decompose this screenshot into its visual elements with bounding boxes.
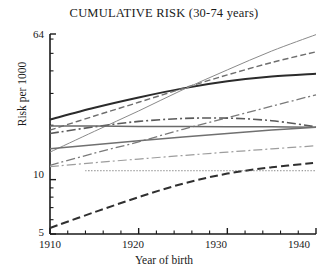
series-line-7 — [50, 127, 316, 149]
series-line-3 — [50, 35, 316, 153]
axes — [50, 34, 316, 234]
series-line-8 — [50, 146, 316, 167]
plot-area — [0, 0, 328, 275]
series-line-9 — [50, 163, 316, 228]
chart-figure: CUMULATIVE RISK (30-74 years) Risk per 1… — [0, 0, 328, 275]
x-axis-ticks — [50, 228, 316, 234]
series-line-1 — [50, 74, 316, 120]
data-series-group — [50, 35, 316, 228]
series-line-2 — [50, 52, 316, 130]
